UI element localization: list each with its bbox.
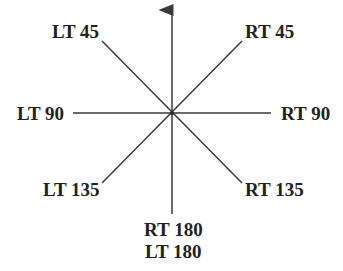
label-lt90: LT 90 [17,103,64,124]
label-rt180: RT 180 [144,219,203,240]
label-rt90: RT 90 [281,103,330,124]
label-lt180: LT 180 [145,241,202,262]
label-rt135: RT 135 [245,179,304,200]
center-point [170,111,174,115]
direction-rose: LT 45 RT 45 LT 90 RT 90 LT 135 RT 135 RT… [0,0,343,271]
label-lt135: LT 135 [43,179,100,200]
label-rt45: RT 45 [245,21,294,42]
direction-diagram: LT 45 RT 45 LT 90 RT 90 LT 135 RT 135 RT… [0,0,343,271]
label-lt45: LT 45 [52,21,99,42]
